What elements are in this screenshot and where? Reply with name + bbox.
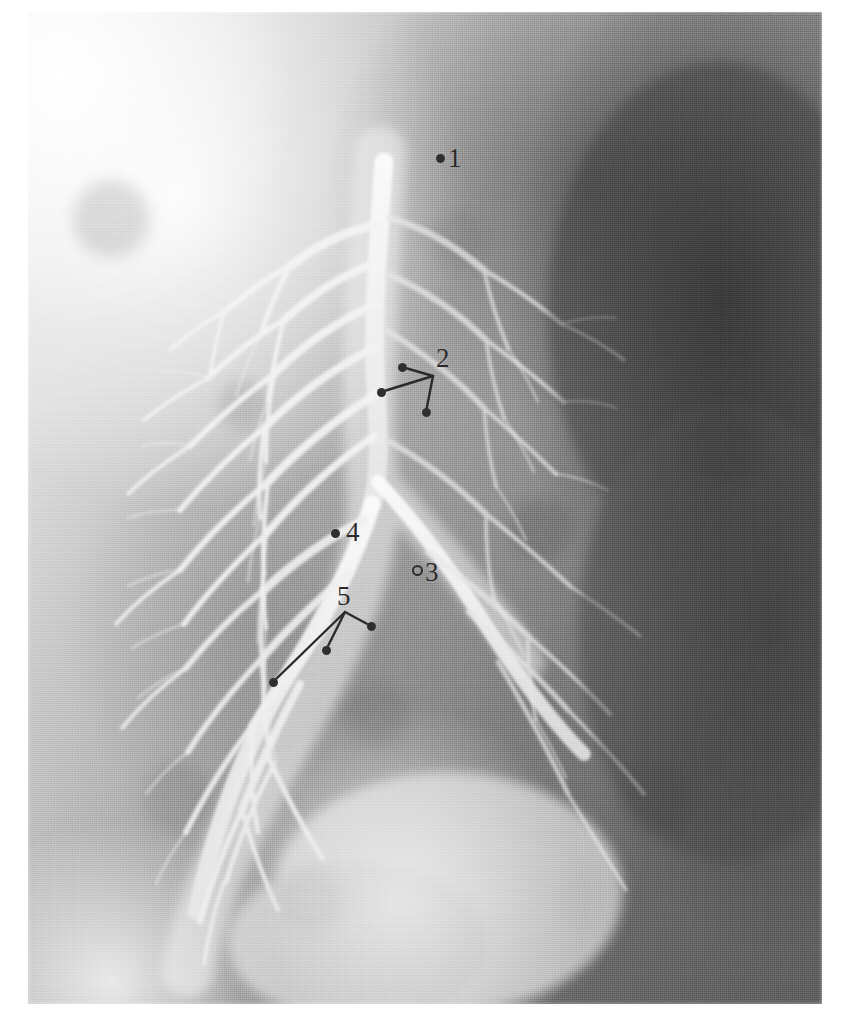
annotation-label-5[interactable]: 5 xyxy=(337,583,351,610)
annotation-overlay: 1 2 3 4 5 xyxy=(0,0,848,1034)
annotation-dot-2-1[interactable] xyxy=(398,363,407,372)
annotation-label-2[interactable]: 2 xyxy=(436,345,450,372)
annotation-dot-1-1[interactable] xyxy=(436,154,445,163)
annotation-dot-2-2[interactable] xyxy=(377,388,386,397)
annotation-dot-4-1[interactable] xyxy=(331,529,340,538)
annotation-label-4[interactable]: 4 xyxy=(346,519,360,546)
annotation-label-1[interactable]: 1 xyxy=(448,145,462,172)
annotation-dot-2-3[interactable] xyxy=(422,408,431,417)
annotation-dot-5-1[interactable] xyxy=(367,622,376,631)
annotation-dot-3-1[interactable] xyxy=(412,565,423,576)
screenshot-root: 1 2 3 4 5 xyxy=(0,0,848,1034)
annotation-dot-5-2[interactable] xyxy=(322,646,331,655)
annotation-dot-5-3[interactable] xyxy=(269,678,278,687)
annotation-label-3[interactable]: 3 xyxy=(425,559,439,586)
